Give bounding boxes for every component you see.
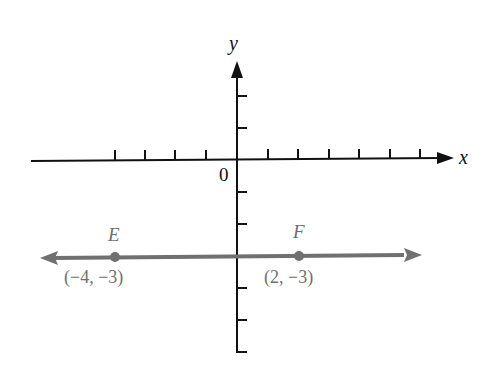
x-axis (31, 149, 454, 164)
point-f-label: F (293, 221, 305, 243)
graph-canvas (0, 0, 497, 372)
point-f-coordinates: (2, −3) (264, 267, 313, 288)
point-e-coordinates: (−4, −3) (64, 267, 123, 288)
x-axis-label: x (459, 146, 468, 169)
origin-label: 0 (219, 164, 229, 186)
y-axis-arrow-icon (231, 61, 243, 78)
point-e-label: E (108, 224, 120, 246)
line-y-minus-3 (40, 248, 422, 265)
x-axis-arrow-icon (437, 152, 454, 164)
right-arrow-icon (404, 248, 422, 262)
y-axis-ticks (237, 96, 247, 352)
point-e-dot (110, 252, 120, 262)
point-f-dot (294, 251, 304, 261)
coordinate-plane: y x 0 E F (−4, −3) (2, −3) (0, 0, 497, 372)
y-axis-label: y (229, 32, 238, 55)
y-axis (231, 61, 247, 353)
